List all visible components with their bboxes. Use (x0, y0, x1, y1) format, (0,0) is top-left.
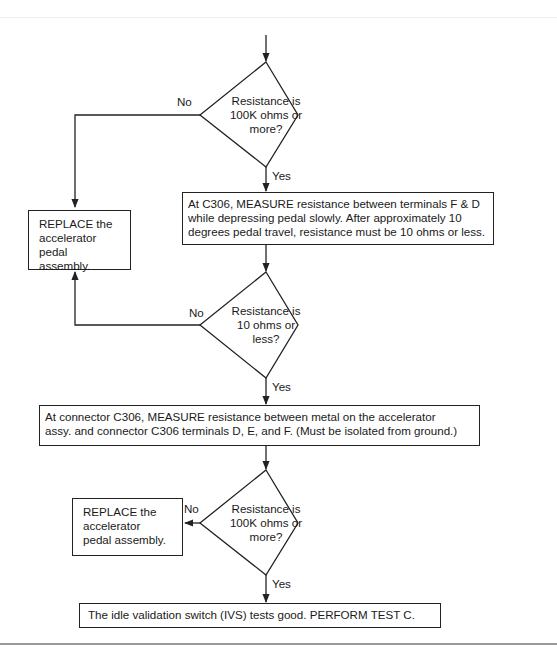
decision-1-yes-label: Yes (258, 169, 291, 182)
step-line: At connector C306, MEASURE resistance be… (45, 410, 474, 424)
step-replace-pedal-2: REPLACE the accelerator pedal assembly. (72, 498, 183, 556)
decision-1-line: Resistance is (208, 94, 324, 108)
step-final-ivs-good: The idle validation switch (IVS) tests g… (79, 603, 441, 628)
decision-1-line: 100K ohms or (208, 108, 324, 122)
decision-3-text: Resistance is 100K ohms or more? (208, 502, 324, 544)
step-line: accelerator (39, 231, 120, 245)
bottom-rule (0, 643, 557, 645)
decision-2-yes-label: Yes (272, 380, 291, 393)
step-line: REPLACE the (39, 217, 120, 231)
step-measure-fd: At C306, MEASURE resistance between term… (182, 192, 494, 245)
step-line: accelerator (83, 519, 172, 533)
step-line: pedal assembly. (39, 245, 120, 273)
step-line: degrees pedal travel, resistance must be… (188, 225, 488, 239)
decision-3-line: 100K ohms or (208, 516, 324, 530)
step-line: At C306, MEASURE resistance between term… (188, 197, 488, 211)
decision-1-line: more? (208, 122, 324, 136)
step-line: while depressing pedal slowly. After app… (188, 211, 488, 225)
step-line: pedal assembly. (83, 533, 172, 547)
step-line: REPLACE the (83, 505, 172, 519)
decision-2-line: less? (208, 332, 324, 346)
decision-3-line: Resistance is (208, 502, 324, 516)
decision-3-no-label: No (184, 502, 199, 515)
yes-text: Yes (272, 169, 291, 182)
decision-2-text: Resistance is 10 ohms or less? (208, 304, 324, 346)
decision-2-line: Resistance is (208, 304, 324, 318)
decision-3-line: more? (208, 530, 324, 544)
decision-2-no-label: No (189, 306, 204, 319)
decision-3-yes-label: Yes (272, 577, 291, 590)
step-line: The idle validation switch (IVS) tests g… (88, 608, 432, 622)
decision-1-no-label: No (177, 95, 192, 108)
step-measure-ground-isolation: At connector C306, MEASURE resistance be… (39, 405, 480, 446)
step-replace-pedal-1: REPLACE the accelerator pedal assembly. (28, 210, 131, 270)
decision-2-line: 10 ohms or (208, 318, 324, 332)
step-line: assy. and connector C306 terminals D, E,… (45, 424, 474, 438)
decision-1-text: Resistance is 100K ohms or more? (208, 94, 324, 136)
